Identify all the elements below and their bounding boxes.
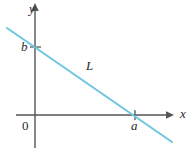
x-intercept-label: a xyxy=(131,119,138,132)
y-intercept-label: b xyxy=(21,40,28,53)
line-graph-figure: y x b a L 0 xyxy=(0,0,194,154)
line-label: L xyxy=(86,59,93,72)
y-axis-label: y xyxy=(29,2,35,15)
line-L xyxy=(7,28,172,142)
origin-label: 0 xyxy=(22,119,29,132)
graph-canvas xyxy=(0,0,194,154)
x-axis-arrowhead-icon xyxy=(166,111,174,119)
x-axis-label: x xyxy=(180,107,186,120)
